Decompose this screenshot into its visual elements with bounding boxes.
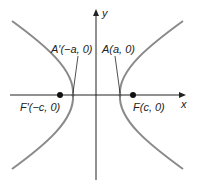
vertex-left-point xyxy=(72,94,75,97)
vertex-right-label: A(a, 0) xyxy=(101,43,135,55)
focus-left-label: F′(−c, 0) xyxy=(20,101,61,113)
focus-right-point xyxy=(130,92,136,98)
vertex-left-label: A′(−a, 0) xyxy=(50,43,93,55)
x-axis-label: x xyxy=(180,98,187,110)
y-axis-label: y xyxy=(101,7,109,19)
hyperbola-diagram: y x A′(−a, 0) A(a, 0) F′(−c, 0) F(c, 0) xyxy=(0,0,198,185)
vertex-right-point xyxy=(119,94,122,97)
focus-right-label: F(c, 0) xyxy=(133,101,165,113)
vertex-right-leader xyxy=(115,56,120,93)
focus-left-point xyxy=(57,92,63,98)
vertex-left-leader xyxy=(73,56,78,93)
y-axis-arrow-icon xyxy=(93,9,99,16)
